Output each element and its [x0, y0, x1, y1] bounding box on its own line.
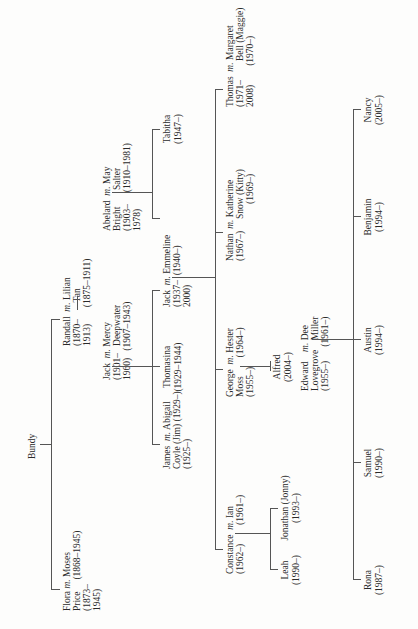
leah-drop — [270, 569, 278, 570]
person-thomas-line2: (1971– Bell (Maggie) — [235, 8, 246, 107]
gen3-right-sibling-line — [152, 129, 153, 219]
person-edward-line3: (1955–) (1961–) — [320, 317, 331, 391]
person-jack-1937: Jack m. Emmeline — [162, 235, 173, 307]
george-drop — [215, 369, 223, 370]
randall-marriage-line — [77, 296, 78, 310]
george-marriage-drop — [240, 366, 270, 367]
alfred-connector — [270, 361, 271, 371]
person-george-line2: Moss (1964–) — [235, 327, 246, 397]
person-james-line2: Coyle (Jim) (1929–) — [172, 391, 183, 469]
person-george: George m. Hester — [225, 328, 236, 397]
person-james: James m. Abigail — [162, 401, 173, 469]
austin-drop — [353, 339, 361, 340]
edward-marriage-drop — [312, 339, 353, 340]
person-flora-dates: (1873– — [82, 584, 93, 611]
jack1937-marriage-drop — [172, 277, 215, 278]
family-tree: Bundy Flora m. Moses Price (1868–1945) (… — [0, 0, 418, 629]
person-austin: Austin (1994–) — [363, 318, 384, 362]
person-samuel: Samuel (1990–) — [363, 441, 384, 485]
randall-drop — [51, 319, 60, 320]
gen4-sibling-line — [215, 89, 216, 550]
marriage-marker: m. — [62, 579, 72, 588]
family-name-title: Bundy — [27, 434, 38, 459]
emmeline-drop — [152, 218, 160, 219]
person-jack-1937-dates2: 2000) — [182, 285, 193, 307]
person-nathan: Nathan m. Katherine — [225, 180, 236, 261]
nancy-drop — [353, 109, 361, 110]
person-jonathan: Jonathan (Jonny) (1993–) — [280, 472, 301, 544]
nathan-drop — [215, 232, 223, 233]
benjamin-drop — [353, 216, 361, 217]
person-nathan-line2: (1967–) Snow (Kitty) — [235, 169, 246, 261]
jack1937-drop — [152, 290, 160, 291]
person-thomasina: Thomasina (1929–1944) — [162, 337, 183, 397]
thomasina-drop — [152, 366, 160, 367]
jonathan-drop — [270, 508, 278, 509]
rona-drop — [353, 579, 361, 580]
samuel-drop — [353, 462, 361, 463]
person-flora: Flora m. Moses — [62, 552, 73, 611]
gen5-edward-sibling-line — [353, 109, 354, 580]
person-thomas: Thomas m. Margaret — [225, 25, 236, 107]
constance-drop — [215, 549, 223, 550]
gen1-sibling-line — [51, 319, 52, 590]
person-abelard-line2: Bright Salter — [112, 168, 123, 231]
person-constance: Constance m. Ian — [225, 506, 236, 574]
person-abelard: Abelard m. May — [102, 167, 113, 231]
person-jack-1901-line3: 1960) (1907–1943) — [122, 302, 133, 380]
person-randall-line3: 1913) (1875–1911) — [82, 258, 93, 346]
thomas-drop — [215, 89, 223, 90]
person-rona: Rona (1987–) — [363, 560, 384, 600]
person-james-dates: (1925–) — [182, 439, 193, 469]
person-thomas-line3: 2008) (1970–) — [245, 36, 256, 107]
person-nathan-spouse-dates: (1969–) — [245, 174, 256, 204]
person-edward-line2: Lovegrove Miller — [310, 317, 321, 391]
flora-drop — [51, 589, 60, 590]
person-george-dates: (1955–) — [245, 367, 256, 397]
person-flora-line2: Price (1868–1945) — [72, 531, 83, 611]
person-alfred: Alfred (2004–) — [272, 337, 293, 397]
person-benjamin: Benjamin (1994–) — [363, 191, 384, 243]
person-nancy: Nancy (2005–) — [363, 88, 384, 132]
james-drop — [152, 444, 160, 445]
person-jack-1901: Jack m. Mercy — [102, 322, 113, 380]
person-abelard-dates2: 1978) — [132, 209, 143, 231]
root-connector — [40, 444, 51, 445]
person-abelard-line3: (1903– (1910–1981) — [122, 143, 133, 231]
gen3-left-sibling-line — [152, 290, 153, 445]
person-edward: Edward m. Dee — [300, 325, 311, 391]
person-constance-line2: (1962–) (1961–) — [235, 495, 246, 574]
tabitha-drop — [152, 129, 160, 130]
person-randall: Randall m. Lilian — [62, 277, 73, 346]
person-leah: Leah (1990–) — [280, 550, 301, 590]
jack1901-marriage-drop — [112, 366, 152, 367]
abelard-marriage-drop — [112, 192, 152, 193]
person-flora-dates2: 1945) — [92, 589, 103, 611]
person-tabitha: Tabitha (1947–) — [162, 104, 183, 154]
constance-marriage-drop — [235, 533, 270, 534]
person-jack-1901-line2: (1901– Deepwater — [112, 305, 123, 380]
gen5-constance-line — [270, 508, 271, 570]
